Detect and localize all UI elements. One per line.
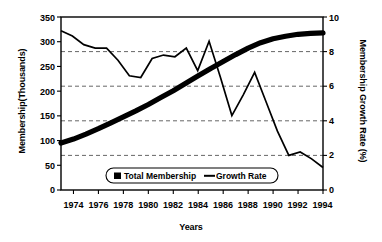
gridlines [61,52,323,156]
chart-container: Membership(Thousands) Membership Growth … [0,0,382,242]
plot-frame [61,17,323,190]
series-total-membership [61,33,323,143]
legend-label-growth-rate: Growth Rate [216,171,267,181]
legend-label-total-membership: Total Membership [124,171,196,181]
plot-area [0,0,382,242]
legend-marker-total-membership [114,173,121,180]
series-growth-rate [61,31,323,168]
